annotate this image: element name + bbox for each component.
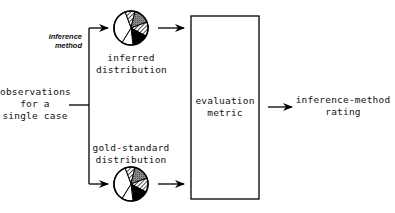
- inference-method-label: inference method: [40, 32, 82, 50]
- gold-standard-distribution-label: gold-standard distribution: [91, 142, 171, 166]
- inference-method-line-2: method: [40, 41, 82, 50]
- observations-line-2: for a: [0, 98, 70, 110]
- observations-line-1: observations: [0, 86, 70, 98]
- gold-standard-distribution-pie: [114, 167, 148, 201]
- rating-label: inference-method rating: [293, 94, 393, 118]
- metric-line-2: metric: [191, 107, 259, 119]
- observations-label: observations for a single case: [0, 86, 70, 122]
- gold-line-1: gold-standard: [91, 142, 171, 154]
- metric-line-1: evaluation: [191, 95, 259, 107]
- observations-line-3: single case: [0, 110, 70, 122]
- inferred-distribution-label: inferred distribution: [96, 52, 166, 76]
- gold-line-2: distribution: [91, 154, 171, 166]
- inference-method-line-1: inference: [40, 32, 82, 41]
- evaluation-metric-label: evaluation metric: [191, 95, 259, 119]
- inferred-line-2: distribution: [96, 64, 166, 76]
- rating-line-1: inference-method: [293, 94, 393, 106]
- rating-line-2: rating: [293, 106, 393, 118]
- inferred-distribution-pie: [114, 11, 148, 45]
- inferred-line-1: inferred: [96, 52, 166, 64]
